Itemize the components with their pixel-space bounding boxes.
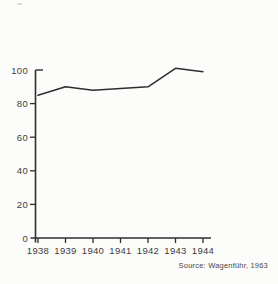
y-tick-label: 100	[11, 65, 28, 76]
y-tick-label: 40	[17, 165, 28, 176]
x-tick-label: 1939	[54, 245, 76, 256]
source-caption: Source: Wagenführ, 1963	[179, 261, 268, 270]
x-tick-label: 1940	[82, 245, 104, 256]
y-tick-label: 20	[17, 199, 28, 210]
y-tick-label: 0	[22, 233, 28, 244]
x-tick-label: 1943	[164, 245, 186, 256]
data-line	[38, 68, 203, 95]
x-tick-label: 1938	[27, 245, 49, 256]
x-tick-label: 1944	[192, 245, 214, 256]
y-tick-label: 60	[17, 132, 28, 143]
y-tick-label: 80	[17, 98, 28, 109]
line-chart: 0204060801001938193919401941194219431944	[0, 0, 278, 284]
x-tick-label: 1942	[137, 245, 159, 256]
x-tick-label: 1941	[109, 245, 131, 256]
scanned-figure-page: 0204060801001938193919401941194219431944…	[0, 0, 278, 284]
